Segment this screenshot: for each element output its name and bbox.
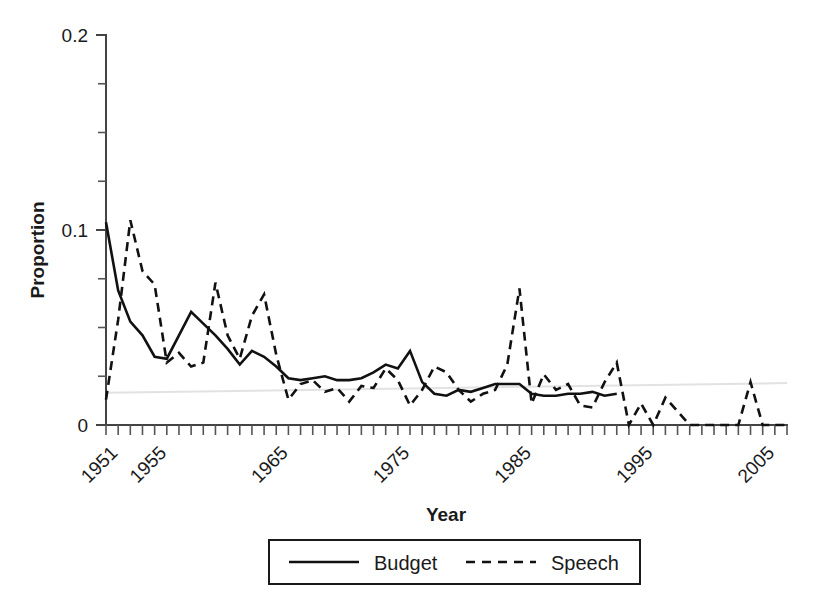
y-tick-label: 0.2 [62,25,88,46]
x-axis-ticks [106,425,787,435]
y-tick-label: 0.1 [62,220,88,241]
x-tick-label: 1955 [125,442,170,487]
x-tick-labels: 1951195519651975198519952005 [77,442,778,487]
x-tick-label: 1975 [369,442,414,487]
x-tick-label: 1985 [490,442,535,487]
chart-figure: Proportion 00.10.2 195119551965197519851… [0,0,817,613]
x-tick-label: 1951 [77,442,122,487]
legend-label-budget: Budget [374,552,438,574]
trend-line-annotation [106,383,787,393]
y-tick-labels: 00.10.2 [62,25,88,436]
legend-label-speech: Speech [551,552,619,574]
x-tick-label: 1995 [612,442,657,487]
chart-svg: Proportion 00.10.2 195119551965197519851… [0,0,817,613]
x-tick-label: 1965 [247,442,292,487]
y-axis-title: Proportion [27,201,48,298]
y-tick-label: 0 [77,415,88,436]
y-axis-title-text: Proportion [27,201,48,298]
y-axis-ticks [96,35,106,425]
chart-legend: Budget Speech [269,540,640,584]
x-axis-title-text: Year [426,504,467,525]
faint-trend-line [106,383,787,393]
series-line-budget [106,222,617,396]
x-tick-label: 2005 [733,442,778,487]
series-line-speech [106,220,787,425]
